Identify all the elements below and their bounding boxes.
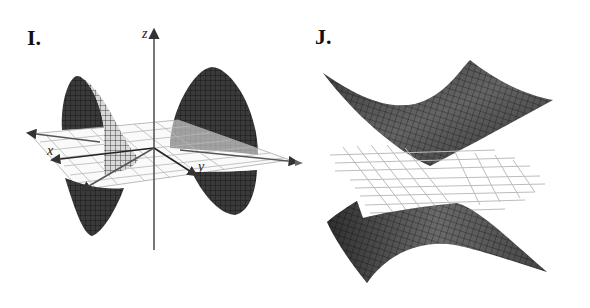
upper-sheet — [323, 60, 553, 166]
lower-sheet — [327, 201, 547, 283]
surface-i-figure: z x y — [0, 0, 300, 308]
z-axis-label: z — [141, 26, 148, 41]
axis-arrow-fragment — [295, 160, 303, 166]
panel-i: I. — [0, 0, 300, 308]
left-sheet-upper-back — [62, 76, 104, 130]
y-axis-label: y — [196, 159, 205, 174]
panel-j: J. — [295, 0, 590, 308]
right-sheet-lower — [192, 170, 257, 215]
surface-j-figure — [295, 0, 590, 308]
x-axis-label: x — [46, 143, 54, 158]
left-sheet-lower — [65, 178, 124, 236]
